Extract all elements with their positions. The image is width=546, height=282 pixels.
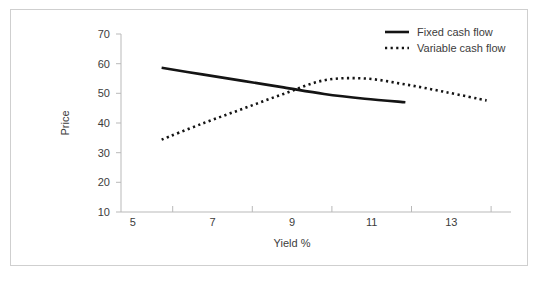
x-tick-label: 13: [445, 216, 457, 228]
x-axis-ticks: [173, 206, 491, 212]
line-chart-svg: 70 60 50 40 30 20 10 5 7 9 11: [11, 10, 529, 267]
y-tick-label: 10: [98, 206, 110, 218]
x-axis-title: Yield %: [274, 237, 311, 249]
x-tick-label: 9: [289, 216, 295, 228]
y-axis-ticks: [116, 34, 121, 212]
y-tick-label: 40: [98, 117, 110, 129]
series-fixed-cash-flow: [162, 68, 406, 102]
x-axis-tick-labels: 5 7 9 11 13: [130, 216, 458, 228]
series-variable-cash-flow: [162, 78, 487, 140]
chart-legend: Fixed cash flow Variable cash flow: [385, 26, 506, 54]
legend-label-fixed-cash-flow: Fixed cash flow: [417, 26, 493, 38]
chart-figure-frame: 70 60 50 40 30 20 10 5 7 9 11: [10, 9, 528, 266]
y-tick-label: 20: [98, 176, 110, 188]
legend-label-variable-cash-flow: Variable cash flow: [417, 42, 506, 54]
x-tick-label: 7: [209, 216, 215, 228]
y-tick-label: 30: [98, 147, 110, 159]
x-tick-label: 11: [366, 216, 377, 228]
x-tick-label: 5: [130, 216, 136, 228]
y-axis-title: Price: [59, 110, 71, 135]
y-tick-label: 60: [98, 58, 110, 70]
y-tick-label: 50: [98, 87, 110, 99]
chart-plot-area: 70 60 50 40 30 20 10 5 7 9 11: [11, 10, 529, 267]
y-axis-tick-labels: 70 60 50 40 30 20 10: [98, 28, 110, 218]
y-tick-label: 70: [98, 28, 110, 40]
